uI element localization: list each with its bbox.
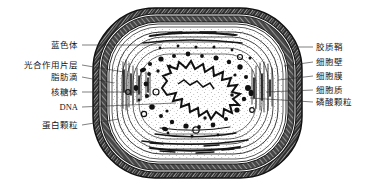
label-ribosome: 核糖体 [51,88,78,97]
label-capsule: 胶质鞘 [316,43,343,52]
label-cytoplasm: 细胞质 [316,86,343,95]
label-phycobilisome: 蓝色体 [51,41,78,50]
label-photosynthetic-lamellae: 光合作用片层 [24,61,78,70]
label-cell-membrane: 细胞膜 [316,72,343,81]
label-lipid-droplet: 脂肪滴 [51,73,78,82]
cyanobacteria-cell-diagram: 蓝色体 光合作用片层 脂肪滴 核糖体 DNA 蛋白颗粒 胶质鞘 细胞壁 细胞膜 … [0,0,371,190]
label-phosphate-granule: 磷酸颗粒 [316,98,352,107]
label-protein-granule: 蛋白颗粒 [42,121,78,130]
label-dna: DNA [60,103,78,112]
label-cell-wall: 细胞壁 [316,58,343,67]
